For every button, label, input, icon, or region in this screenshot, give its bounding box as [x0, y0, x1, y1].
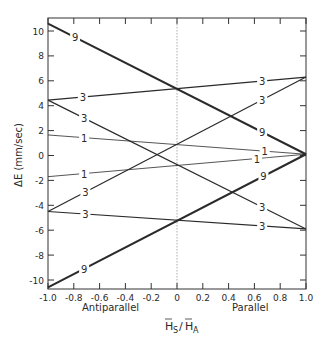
region-label-antiparallel: Antiparallel — [82, 302, 139, 313]
axis-ticks: -1.0-0.8-0.6-0.4-0.200.20.40.60.81.01086… — [29, 18, 313, 303]
series-label: 9 — [260, 171, 266, 182]
series-label: 3 — [82, 209, 88, 220]
series-label: 3 — [259, 76, 265, 87]
x-tick-label: 0 — [174, 293, 180, 303]
x-tick-label: 0.2 — [196, 293, 210, 303]
series-label: 9 — [72, 32, 78, 43]
y-tick-label: -8 — [35, 251, 44, 261]
y-tick-label: 4 — [38, 101, 44, 111]
y-tick-label: 0 — [38, 151, 44, 161]
chart-canvas: -1.0-0.8-0.6-0.4-0.200.20.40.60.81.01086… — [0, 0, 325, 340]
x-tick-label: -0.2 — [142, 293, 160, 303]
x-label-sub-s: S — [173, 326, 178, 335]
y-tick-label: -2 — [35, 176, 44, 186]
series-label: 3 — [259, 202, 265, 213]
x-axis-label: H S / H A — [165, 319, 199, 335]
series-label: 3 — [80, 92, 86, 103]
y-tick-label: -6 — [35, 226, 44, 236]
x-tick-label: -0.8 — [65, 293, 83, 303]
series-label: 1 — [81, 133, 87, 144]
series-label: 1 — [262, 146, 268, 157]
series-label: 3 — [82, 187, 88, 198]
series-label: 9 — [259, 127, 265, 138]
series-label: 1 — [254, 154, 260, 165]
x-tick-label: -1.0 — [39, 293, 57, 303]
line-labels: 9933331111333399 — [70, 31, 270, 275]
y-tick-label: 6 — [38, 76, 44, 86]
series-label: 1 — [81, 169, 87, 180]
series-label: 9 — [81, 264, 87, 275]
series-label: 3 — [81, 113, 87, 124]
region-label-parallel: Parallel — [232, 302, 268, 313]
x-label-slash: / — [179, 320, 183, 333]
y-axis-label: ΔE (mm/sec) — [13, 123, 24, 187]
y-tick-label: 10 — [33, 27, 45, 37]
y-tick-label: 2 — [38, 126, 44, 136]
x-tick-label: 0.8 — [273, 293, 288, 303]
y-tick-label: -10 — [29, 276, 44, 286]
series-label: 3 — [259, 95, 265, 106]
x-label-sub-a: A — [193, 326, 199, 335]
series-label: 3 — [259, 221, 265, 232]
y-tick-label: -4 — [35, 201, 44, 211]
y-tick-label: 8 — [38, 51, 44, 61]
x-tick-label: 1.0 — [299, 293, 314, 303]
